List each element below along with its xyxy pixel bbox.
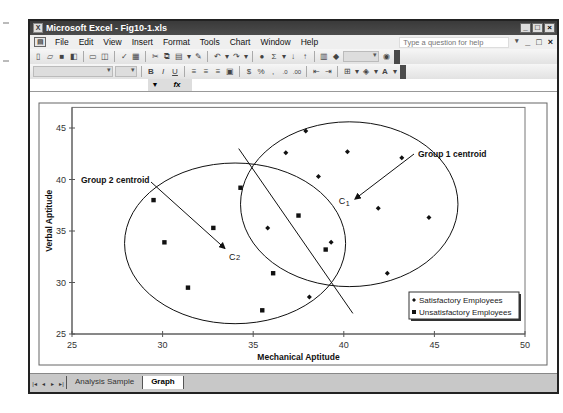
center-icon[interactable]: ≡: [201, 67, 211, 77]
decrease-indent-icon[interactable]: ⇤: [311, 67, 321, 77]
menu-file[interactable]: File: [50, 37, 74, 47]
merge-center-icon[interactable]: ▣: [225, 67, 235, 77]
y-tick-label: 45: [56, 123, 66, 133]
redo-icon[interactable]: ↷: [231, 52, 241, 62]
sort-descending-icon[interactable]: ↑: [300, 52, 310, 62]
save-icon[interactable]: ■: [57, 52, 67, 62]
restore-button[interactable]: □: [532, 23, 543, 33]
tab-graph[interactable]: Graph: [142, 376, 184, 389]
menu-tools[interactable]: Tools: [195, 37, 225, 47]
font-size-combo[interactable]: [115, 66, 137, 77]
close-button[interactable]: ×: [544, 23, 555, 33]
cut-icon[interactable]: ✂: [150, 52, 160, 62]
prev-sheet-button[interactable]: ◂: [39, 380, 48, 387]
unsatisfactory-point[interactable]: [323, 247, 327, 251]
font-color-dropdown-icon[interactable]: ▾: [392, 67, 397, 77]
undo-icon[interactable]: ↶: [212, 52, 222, 62]
unsatisfactory-point[interactable]: [271, 271, 275, 275]
toolbar-separator: [306, 66, 307, 77]
unsatisfactory-point[interactable]: [296, 213, 300, 217]
increase-indent-icon[interactable]: ⇥: [323, 67, 333, 77]
unsatisfactory-point[interactable]: [260, 308, 264, 312]
permission-icon[interactable]: ◧: [69, 52, 79, 62]
unsatisfactory-point[interactable]: [151, 198, 155, 202]
chart-wizard-icon[interactable]: ▥: [319, 52, 329, 62]
toolbar-options-handle[interactable]: [400, 65, 406, 79]
unsatisfactory-point[interactable]: [162, 240, 166, 244]
sort-ascending-icon[interactable]: ↓: [288, 52, 298, 62]
bold-icon[interactable]: B: [146, 67, 156, 77]
new-icon[interactable]: ▯: [33, 52, 43, 62]
hyperlink-icon[interactable]: ●: [257, 52, 267, 62]
autosum-icon[interactable]: Σ: [269, 52, 279, 62]
zoom-combo[interactable]: [343, 51, 379, 62]
menu-window[interactable]: Window: [255, 37, 295, 47]
menu-format[interactable]: Format: [158, 37, 195, 47]
doc-close-button[interactable]: ×: [548, 37, 553, 47]
align-left-icon[interactable]: ≡: [189, 67, 199, 77]
spelling-icon[interactable]: ✓: [119, 52, 129, 62]
standard-toolbar: ▯ ▱ ■ ◧ ▭ ◫ ✓ ▦ ✂ ⧉ ▤ ▾ ✎ ↶ ▾ ↷ ▾ ● Σ ▾ …: [30, 49, 557, 64]
align-right-icon[interactable]: ≡: [213, 67, 223, 77]
increase-decimal-icon[interactable]: .0: [280, 67, 290, 77]
title-bar[interactable]: X Microsoft Excel - Fig10-1.xls _ □ ×: [30, 21, 557, 35]
research-icon[interactable]: ▦: [131, 52, 141, 62]
c2-subscript: 2: [236, 253, 240, 262]
legend-square-icon: [412, 310, 416, 314]
unsatisfactory-point[interactable]: [211, 226, 215, 230]
print-preview-icon[interactable]: ◫: [100, 52, 110, 62]
percent-icon[interactable]: %: [256, 67, 266, 77]
toolbar-separator: [141, 66, 142, 77]
borders-dropdown-icon[interactable]: ▾: [354, 67, 359, 77]
fill-color-dropdown-icon[interactable]: ▾: [373, 67, 378, 77]
help-dropdown-icon[interactable]: ▾: [515, 37, 519, 47]
font-color-icon[interactable]: A: [380, 67, 390, 77]
autosum-dropdown-icon[interactable]: ▾: [281, 52, 286, 62]
chart-sheet[interactable]: 2530354045502530354045Mechanical Aptitud…: [30, 93, 557, 373]
currency-icon[interactable]: $: [244, 67, 254, 77]
fill-color-icon[interactable]: ◈: [361, 67, 371, 77]
underline-icon[interactable]: U: [170, 67, 180, 77]
name-box-dropdown-icon[interactable]: ▼: [148, 79, 162, 91]
paste-icon[interactable]: ▤: [174, 52, 184, 62]
name-box[interactable]: [30, 79, 148, 91]
comma-icon[interactable]: ,: [268, 67, 278, 77]
menu-insert[interactable]: Insert: [127, 37, 158, 47]
toolbar-options-handle[interactable]: [394, 50, 400, 64]
formula-input[interactable]: [192, 79, 557, 91]
open-icon[interactable]: ▱: [45, 52, 55, 62]
menu-chart[interactable]: Chart: [225, 37, 256, 47]
menu-edit[interactable]: Edit: [74, 37, 99, 47]
redo-dropdown-icon[interactable]: ▾: [243, 52, 248, 62]
c1-label: C: [339, 196, 346, 206]
undo-dropdown-icon[interactable]: ▾: [224, 52, 229, 62]
toolbar-separator: [337, 66, 338, 77]
next-sheet-button[interactable]: ▸: [48, 380, 57, 387]
font-combo[interactable]: [33, 66, 113, 77]
italic-icon[interactable]: I: [158, 67, 168, 77]
doc-minimize-button[interactable]: _: [525, 37, 530, 47]
tab-analysis-sample[interactable]: Analysis Sample: [66, 376, 142, 389]
menu-view[interactable]: View: [98, 37, 126, 47]
insert-function-icon[interactable]: fx: [162, 79, 192, 91]
last-sheet-button[interactable]: ▸|: [57, 380, 66, 387]
format-painter-icon[interactable]: ✎: [193, 52, 203, 62]
first-sheet-button[interactable]: |◂: [30, 380, 39, 387]
copy-icon[interactable]: ⧉: [162, 52, 172, 62]
minimize-button[interactable]: _: [520, 23, 531, 33]
decrease-decimal-icon[interactable]: .00: [292, 67, 302, 77]
help-icon[interactable]: ◉: [381, 52, 391, 62]
unsatisfactory-point[interactable]: [238, 186, 242, 190]
menu-help[interactable]: Help: [296, 37, 323, 47]
unsatisfactory-point[interactable]: [186, 285, 190, 289]
paste-dropdown-icon[interactable]: ▾: [186, 52, 191, 62]
scatter-chart[interactable]: 2530354045502530354045Mechanical Aptitud…: [30, 93, 557, 375]
doc-restore-button[interactable]: □: [536, 37, 541, 47]
formatting-toolbar: B I U ≡ ≡ ≡ ▣ $ % , .0 .00 ⇤ ⇥ ⊞ ▾ ◈ ▾ A…: [30, 64, 557, 79]
excel-app-icon[interactable]: X: [33, 23, 43, 33]
document-icon[interactable]: ▤: [34, 37, 46, 47]
drawing-icon[interactable]: ◆: [331, 52, 341, 62]
print-icon[interactable]: ▭: [88, 52, 98, 62]
help-search-input[interactable]: [399, 37, 509, 48]
borders-icon[interactable]: ⊞: [342, 67, 352, 77]
